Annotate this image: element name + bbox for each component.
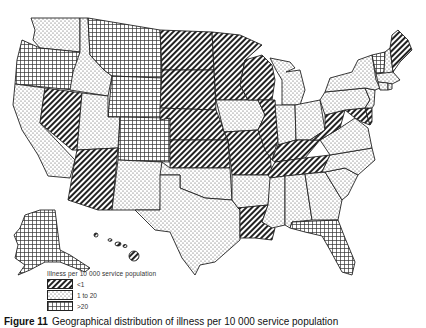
legend-label: <1 bbox=[77, 281, 84, 288]
state-ME bbox=[390, 30, 412, 72]
legend-item-high: >20 bbox=[47, 301, 156, 311]
state-KS bbox=[170, 140, 230, 168]
figure-label: Figure 11 bbox=[4, 316, 48, 327]
state-FL bbox=[290, 220, 355, 275]
state-CO bbox=[118, 117, 170, 162]
state-AZ bbox=[68, 148, 118, 210]
figure-caption: Figure 11Geographical distribution of il… bbox=[4, 316, 338, 327]
state-WY bbox=[108, 76, 162, 120]
legend-label: 1 to 20 bbox=[77, 292, 97, 299]
state-MI bbox=[270, 58, 305, 105]
legend-item-mid: 1 to 20 bbox=[47, 290, 156, 300]
state-NM bbox=[112, 160, 162, 210]
state-AR bbox=[232, 175, 272, 208]
legend-item-low: <1 bbox=[47, 279, 156, 289]
hatch-swatch-icon bbox=[47, 279, 73, 289]
state-SD bbox=[160, 70, 216, 110]
state-NE bbox=[160, 108, 228, 140]
caption-text: Geographical distribution of illness per… bbox=[52, 316, 338, 327]
state-CT bbox=[378, 82, 388, 90]
state-NY bbox=[325, 55, 380, 92]
legend-label: >20 bbox=[77, 303, 88, 310]
legend-title: Illness per 10 000 service population bbox=[47, 270, 156, 277]
state-AK bbox=[14, 210, 90, 275]
dots-swatch-icon bbox=[47, 290, 73, 300]
state-IN bbox=[275, 105, 296, 145]
state-ND bbox=[160, 30, 214, 70]
state-IA bbox=[216, 100, 265, 132]
state-WI bbox=[240, 55, 275, 100]
state-RI bbox=[388, 83, 392, 90]
legend: Illness per 10 000 service population <1… bbox=[47, 270, 156, 312]
grid-swatch-icon bbox=[47, 301, 73, 311]
state-HI bbox=[94, 233, 139, 261]
